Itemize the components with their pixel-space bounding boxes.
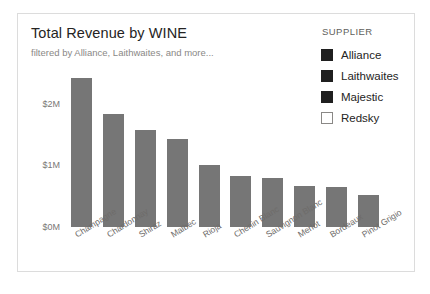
legend: SUPPLIER AllianceLaithwaitesMajesticReds… xyxy=(321,26,413,128)
bar[interactable] xyxy=(167,139,188,227)
y-axis-tick-label: $0M xyxy=(30,222,60,232)
legend-item-label: Redsky xyxy=(341,112,379,124)
legend-swatch-icon xyxy=(321,70,333,82)
bar[interactable] xyxy=(199,165,220,227)
legend-item-label: Majestic xyxy=(341,91,383,103)
legend-item-label: Laithwaites xyxy=(341,70,399,82)
visual-card: Total Revenue by WINE filtered by Allian… xyxy=(17,13,415,272)
legend-item-label: Alliance xyxy=(341,49,381,61)
y-axis-tick-label: $1M xyxy=(30,160,60,170)
y-axis-tick-label: $2M xyxy=(30,99,60,109)
legend-item[interactable]: Redsky xyxy=(321,107,413,128)
legend-swatch-icon xyxy=(321,91,333,103)
legend-title: SUPPLIER xyxy=(322,26,413,37)
bar[interactable] xyxy=(71,78,92,227)
legend-item[interactable]: Majestic xyxy=(321,86,413,107)
legend-item[interactable]: Laithwaites xyxy=(321,65,413,86)
legend-swatch-icon xyxy=(321,112,333,124)
legend-swatch-icon xyxy=(321,49,333,61)
legend-item[interactable]: Alliance xyxy=(321,44,413,65)
legend-items: AllianceLaithwaitesMajesticRedsky xyxy=(321,44,413,128)
